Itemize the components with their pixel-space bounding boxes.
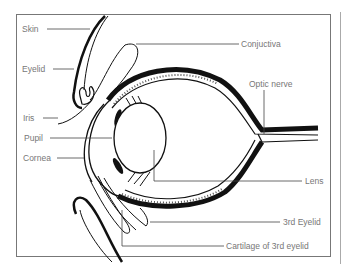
label-eyelid: Eyelid <box>22 64 45 74</box>
label-iris: Iris <box>23 113 34 123</box>
label-3rd-eyelid: 3rd Eyelid <box>283 217 321 227</box>
label-lens: Lens <box>305 176 323 186</box>
label-conjuctiva: Conjuctiva <box>241 39 281 49</box>
label-cornea: Cornea <box>23 153 51 163</box>
label-optic-nerve: Optic nerve <box>249 79 292 89</box>
label-skin: Skin <box>22 24 39 34</box>
label-pupil: Pupil <box>24 133 43 143</box>
eye-diagram-illustration <box>0 0 352 276</box>
label-cartilage-3rd-eyelid: Cartilage of 3rd eyelid <box>226 241 309 251</box>
